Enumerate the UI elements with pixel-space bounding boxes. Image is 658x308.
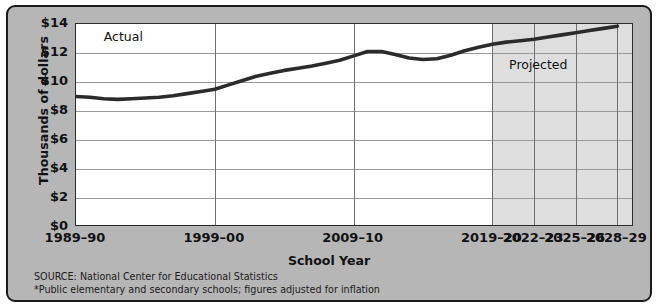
plot-area: Actual Projected (75, 23, 633, 226)
annotation-actual: Actual (104, 29, 143, 44)
y-tick-label: $8 (22, 102, 68, 117)
x-tick-label: 1999–00 (183, 230, 244, 245)
y-tick-label: $4 (22, 160, 68, 175)
x-axis-title: School Year (8, 253, 650, 268)
annotation-projected: Projected (509, 57, 567, 72)
y-tick-label: $2 (22, 189, 68, 204)
y-tick-label: $6 (22, 131, 68, 146)
x-tick-label: 2028–29 (586, 230, 647, 245)
chart-figure: Thousands of dollars $14$12$10$8$6$4$2$0… (6, 5, 652, 302)
y-tick-label: $14 (22, 15, 68, 30)
x-tick-label: 2009–10 (322, 230, 383, 245)
footnote-note: *Public elementary and secondary schools… (34, 284, 380, 295)
y-tick-label: $12 (22, 44, 68, 59)
x-tick-label: 1989–90 (45, 230, 106, 245)
y-tick-label: $10 (22, 73, 68, 88)
data-line-series (76, 24, 633, 226)
footnote-source: SOURCE: National Center for Educational … (34, 271, 278, 282)
